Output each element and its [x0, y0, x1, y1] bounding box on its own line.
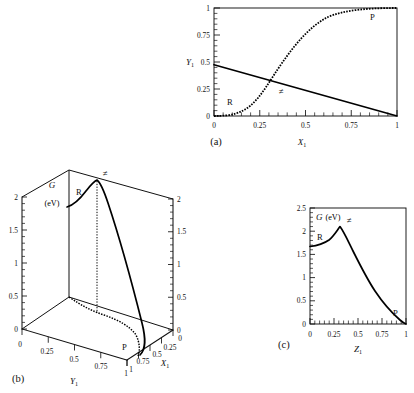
panel-c-xtick-3: 0.75: [376, 330, 389, 339]
panel-c-label-P: P: [393, 308, 398, 318]
panel-c-energy-curve: [310, 227, 406, 324]
panel-c-xtick-0: 0: [308, 330, 312, 339]
panel-b-xtick-3: 0.75: [137, 357, 150, 366]
panel-b-ylabel: Y1: [70, 376, 78, 387]
panel-a-xtick-1: 0.25: [253, 121, 266, 130]
panel-b-ztick-left-0: 0: [14, 325, 18, 334]
panel-c-ytick-4: 2: [302, 227, 306, 236]
panel-c-xlabel: Z1: [354, 344, 362, 355]
panel-a-ytick-1: 0.25: [197, 85, 210, 94]
panel-a-ylabel: Y1: [186, 57, 194, 68]
panel-b-ztick-right-3: 1.5: [177, 227, 187, 236]
panel-b-z-axis-left: 0 0.5 1 1.5 2: [9, 193, 27, 334]
panel-b-ytick-0: 0: [18, 340, 22, 349]
panel-b-ytick-4: 1: [124, 369, 128, 378]
panel-a-xtick-0: 0: [212, 121, 216, 130]
panel-c-xtick-4: 1: [404, 330, 408, 339]
panel-b-xtick-0: 0: [178, 334, 182, 343]
figure-root: 0 0.25 0.5 0.75 1: [0, 0, 414, 393]
panel-a-ytick-3: 0.75: [197, 31, 210, 40]
panel-a-xtick-2: 0.5: [301, 121, 311, 130]
panel-a-sigmoid-curve: [214, 8, 397, 116]
panel-c-label-ts: ≠: [347, 215, 352, 225]
panel-c-xtick-1: 0.25: [328, 330, 341, 339]
panel-b-label-ts: ≠: [103, 168, 108, 178]
panel-b-ytick-1: 0.25: [41, 347, 54, 356]
panel-b-ztick-left-3: 1.5: [9, 226, 19, 235]
panel-c-label-R: R: [317, 232, 323, 242]
panel-b-label-R: R: [76, 187, 82, 197]
panel-b-zlabel-unit: (eV): [45, 199, 60, 208]
panel-a-xtick-4: 1: [395, 121, 399, 130]
panel-c-ytick-2: 1: [302, 273, 306, 282]
panel-b-ztick-right-1: 0.5: [177, 293, 187, 302]
panel-a-caption: (a): [210, 136, 222, 148]
panel-c-ytick-0: 0: [302, 320, 306, 329]
panel-a-y-axis: 0 0.25 0.5 0.75 1: [197, 4, 220, 121]
panel-b-y-axis: 0 0.25 0.5 0.75 1 Y1: [18, 329, 128, 387]
panel-b-ztick-left-1: 0.5: [9, 292, 19, 301]
panel-a-xtick-3: 0.75: [345, 121, 358, 130]
panel-a: 0 0.25 0.5 0.75 1: [184, 0, 414, 150]
panel-a-label-ts: ≠: [279, 86, 284, 96]
panel-a-xlabel: X1: [297, 137, 307, 148]
panel-b-xlabel: X1: [160, 358, 170, 369]
panel-b-caption: (b): [12, 373, 25, 385]
panel-b-label-P: P: [122, 342, 127, 352]
panel-c-ytick-5: 2.5: [297, 204, 307, 213]
panel-b-ztick-right-2: 1: [177, 260, 181, 269]
panel-c-caption: (c): [278, 339, 290, 351]
panel-c: 0 0.5 1 1.5 2 2.5: [274, 196, 414, 371]
panel-b-ztick-right-4: 2: [177, 195, 181, 204]
panel-b-reaction-path: [67, 180, 145, 355]
panel-c-title: G(eV): [316, 212, 341, 222]
panel-b-zlabel: G: [49, 180, 56, 190]
panel-b-z-axis-right: 0 0.5 1 1.5 2: [168, 195, 187, 335]
panel-c-ytick-1: 0.5: [297, 296, 307, 305]
panel-b: 0 0.5 1 1.5 2: [0, 163, 285, 388]
panel-b-ztick-left-2: 1: [14, 259, 18, 268]
panel-b-ytick-2: 0.5: [69, 355, 79, 364]
panel-a-label-R: R: [227, 97, 233, 107]
panel-c-xtick-2: 0.5: [353, 330, 363, 339]
panel-a-axis-titles: Y1 X1: [186, 57, 306, 148]
panel-b-ytick-3: 0.75: [95, 362, 108, 371]
panel-a-frame: [214, 8, 397, 116]
panel-a-ytick-0: 0: [206, 112, 210, 121]
panel-b-xtick-1: 0.25: [164, 343, 177, 352]
panel-a-ytick-4: 1: [206, 4, 210, 13]
panel-c-ytick-3: 1.5: [297, 250, 307, 259]
panel-a-x-axis: 0 0.25 0.5 0.75 1: [212, 110, 399, 130]
panel-b-ztick-left-4: 2: [14, 193, 18, 202]
panel-b-xtick-4: 1: [129, 365, 133, 374]
panel-c-y-axis: 0 0.5 1 1.5 2 2.5: [297, 204, 315, 329]
panel-a-label-P: P: [370, 12, 375, 22]
panel-c-frame: [310, 208, 406, 324]
panel-b-x-axis: 0 0.25 0.5 0.75 1 X1: [127, 330, 182, 374]
panel-a-linear-curve: [214, 65, 397, 116]
panel-b-floor-projection: [69, 297, 139, 356]
panel-a-ytick-2: 0.5: [201, 58, 211, 67]
